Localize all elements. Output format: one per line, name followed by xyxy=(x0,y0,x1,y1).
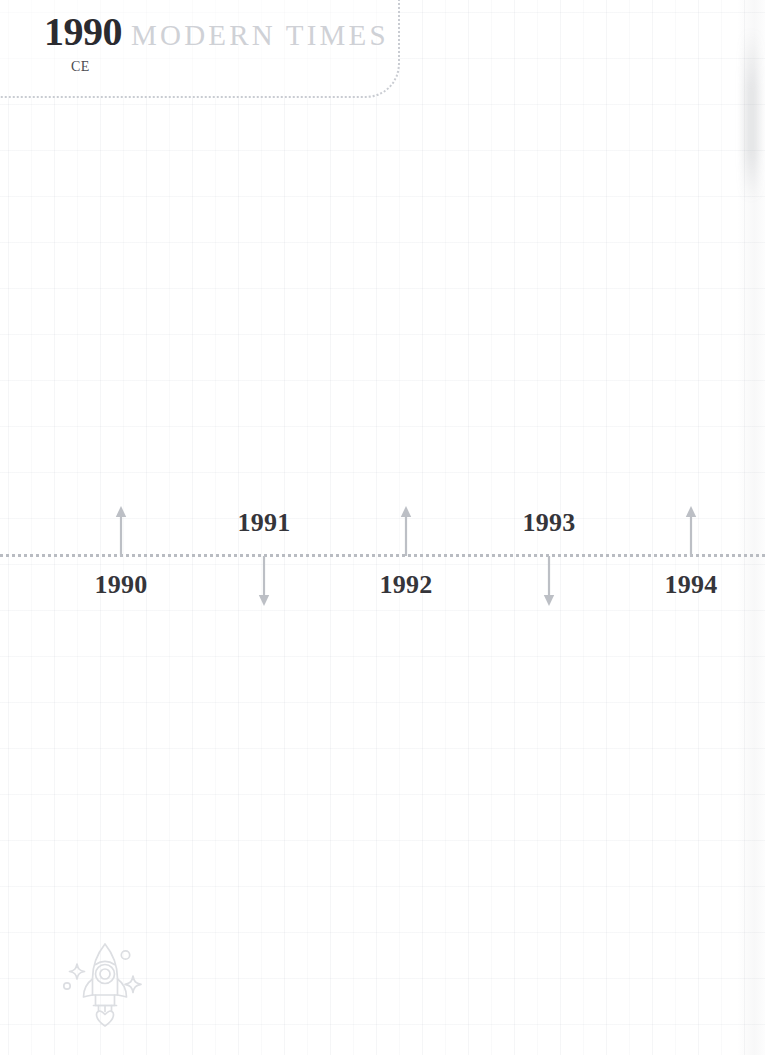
timeline-arrow-1990 xyxy=(113,506,129,556)
era-name: MODERN TIMES xyxy=(131,21,389,50)
rocket-icon xyxy=(57,933,153,1029)
timeline-page: 1990 CE MODERN TIMES 1990199119921993199… xyxy=(0,0,765,1055)
timeline-year-label-1990[interactable]: 1990 xyxy=(95,572,148,598)
era-header-content: 1990 CE MODERN TIMES xyxy=(44,12,404,82)
timeline-year-label-1994[interactable]: 1994 xyxy=(665,572,718,598)
timeline-arrow-1992 xyxy=(398,506,414,556)
timeline-arrow-1991 xyxy=(256,556,272,606)
era-header-card: 1990 CE MODERN TIMES xyxy=(0,0,400,98)
timeline-year-label-1993[interactable]: 1993 xyxy=(523,510,576,536)
timeline-year-label-1991[interactable]: 1991 xyxy=(238,510,291,536)
timeline-arrow-1994 xyxy=(683,506,699,556)
timeline-year-label-1992[interactable]: 1992 xyxy=(380,572,433,598)
era-year-suffix: CE xyxy=(71,60,90,74)
page-edge-shadow xyxy=(737,0,765,1055)
page-edge-highlight xyxy=(744,30,758,200)
era-year: 1990 xyxy=(44,12,122,52)
timeline-arrow-1993 xyxy=(541,556,557,606)
